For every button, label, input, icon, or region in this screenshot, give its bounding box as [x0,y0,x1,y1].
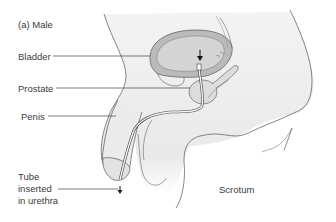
bladder-label: Bladder [18,51,51,62]
panel-label: (a) Male [18,19,53,30]
tube-label-line2: inserted [18,183,52,194]
penis-label: Penis [21,111,45,122]
tube-label-line1: Tube [18,171,39,182]
prostate-label: Prostate [18,83,53,94]
tube-label-line3: in urethra [18,195,58,206]
scrotum-label: Scrotum [219,184,254,195]
down-arrow-tube-icon [118,190,123,194]
